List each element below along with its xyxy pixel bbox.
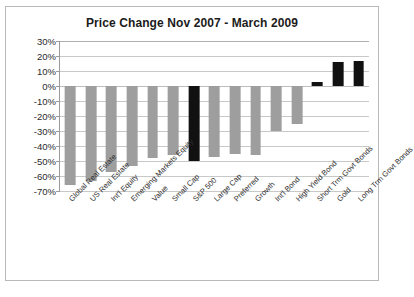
bar-slot (225, 41, 246, 191)
bar[interactable] (65, 86, 76, 185)
y-axis-tick-label: 20% (8, 51, 56, 62)
bar-slot (287, 41, 308, 191)
bar[interactable] (147, 86, 158, 158)
x-axis-labels: Global Real EstateUS Real EstateInt'l Eq… (59, 192, 369, 287)
bar[interactable] (312, 82, 323, 87)
bar[interactable] (353, 61, 364, 87)
y-axis-tick-label: 10% (8, 66, 56, 77)
bar[interactable] (168, 86, 179, 155)
bar[interactable] (333, 62, 344, 86)
bar-slot (245, 41, 266, 191)
bar-slot (184, 41, 205, 191)
y-axis-tick-label: -20% (8, 111, 56, 122)
y-axis-tick-label: -60% (8, 171, 56, 182)
chart-title: Price Change Nov 2007 - March 2009 (6, 16, 378, 30)
y-axis-tick-label: -50% (8, 156, 56, 167)
y-axis-tick-label: -30% (8, 126, 56, 137)
y-axis-tick-label: 0% (8, 81, 56, 92)
bar-slot (60, 41, 81, 191)
y-axis-tick-label: -10% (8, 96, 56, 107)
bar[interactable] (86, 86, 97, 181)
bar[interactable] (271, 86, 282, 131)
bar[interactable] (250, 86, 261, 155)
y-axis-tick-label: 30% (8, 36, 56, 47)
bar-slot (266, 41, 287, 191)
bar[interactable] (292, 86, 303, 124)
chart-container: Price Change Nov 2007 - March 2009 30%20… (5, 6, 379, 281)
bar[interactable] (189, 86, 200, 161)
bar-slot (204, 41, 225, 191)
bar[interactable] (230, 86, 241, 154)
bar[interactable] (209, 86, 220, 157)
bar[interactable] (127, 86, 138, 166)
y-axis-tick-label: -70% (8, 186, 56, 197)
y-axis-tick-label: -40% (8, 141, 56, 152)
y-axis: 30%20%10%0%-10%-20%-30%-40%-50%-60%-70% (6, 41, 56, 192)
